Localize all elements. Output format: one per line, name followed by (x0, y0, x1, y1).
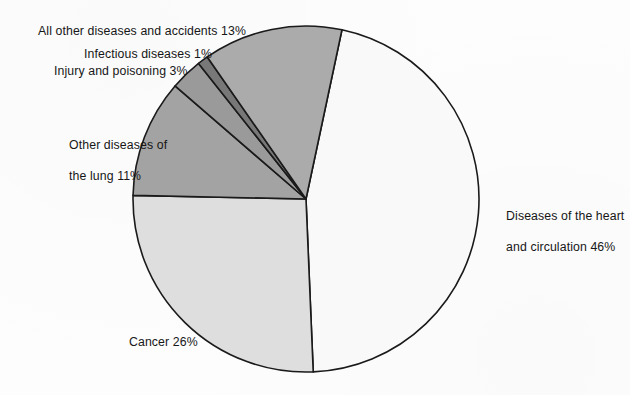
slice-label-diseases-of-the-heart-and-circulation: Diseases of the heart and circulation 46… (492, 193, 624, 271)
pie-chart-figure: All other diseases and accidents 13% Inf… (0, 0, 630, 395)
slice-label-injury-and-poisoning: Injury and poisoning 3% (54, 64, 188, 80)
slice-label-heart-line-1: Diseases of the heart (506, 209, 624, 223)
slice-label-all-other-diseases-and-accidents: All other diseases and accidents 13% (38, 24, 246, 40)
pie-slice-diseases-of-the-heart-and-circulation (306, 30, 479, 372)
slice-label-other-diseases-of-the-lung: Other diseases of the lung 11% (55, 122, 167, 200)
slice-label-heart-line-2: and circulation 46% (506, 240, 615, 254)
slice-label-lung-line-1: Other diseases of (69, 138, 167, 152)
slice-label-cancer: Cancer 26% (129, 335, 198, 351)
slice-label-infectious-diseases: Infectious diseases 1% (84, 47, 212, 63)
slice-label-lung-line-2: the lung 11% (69, 169, 141, 183)
